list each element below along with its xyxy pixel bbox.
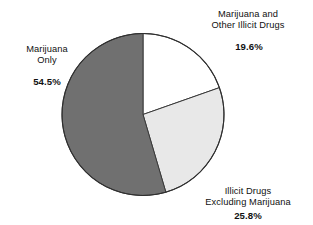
pie-label-illicit-drugs-excluding-marijuana: Illicit Drugs Excluding Marijuana 25.8% (186, 186, 310, 221)
pie-label-marijuana-and-other-illicit-drugs: Marijuana and Other Illicit Drugs 19.6% (186, 9, 310, 52)
pie-label-line-2: Only (4, 55, 90, 66)
pie-chart: Marijuana and Other Illicit Drugs 19.6% … (0, 0, 313, 225)
pie-label-value: 54.5% (4, 76, 90, 87)
pie-label-line-1: Marijuana and (186, 9, 310, 20)
pie-label-value: 25.8% (186, 210, 310, 221)
pie-label-line-2: Other Illicit Drugs (186, 20, 310, 31)
pie-label-line-2: Excluding Marijuana (186, 197, 310, 208)
pie-label-line-1: Marijuana (4, 44, 90, 55)
pie-label-value: 19.6% (188, 41, 310, 52)
pie-label-line-1: Illicit Drugs (186, 186, 310, 197)
pie-label-marijuana-only: Marijuana Only 54.5% (4, 44, 90, 87)
